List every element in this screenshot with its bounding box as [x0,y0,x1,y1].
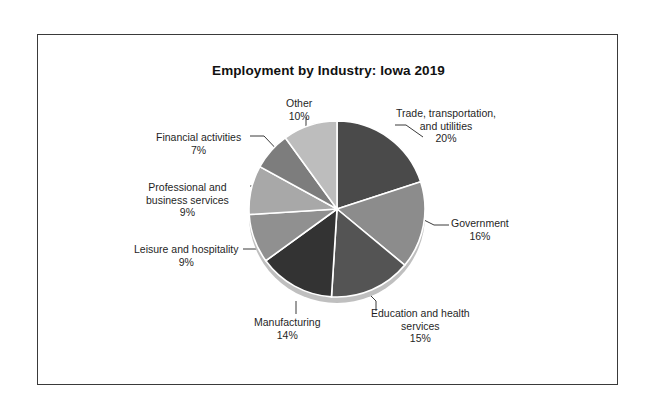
pie-chart [248,120,428,310]
pie-label-leisure: Leisure and hospitality 9% [134,243,238,268]
pie-label-financial-line1: Financial activities [156,131,241,143]
pie-label-professional-pct: 9% [146,206,229,219]
pie-label-leisure-line1: Leisure and hospitality [134,243,238,255]
pie-label-manufacturing-pct: 14% [254,329,321,342]
pie-label-government: Government 16% [451,217,509,242]
pie-label-professional-line1: Professional and [148,181,226,193]
pie-label-government-pct: 16% [451,230,509,243]
pie-label-education: Education and health services 15% [371,307,470,345]
pie-label-other: Other 10% [286,97,312,122]
pie-label-financial-pct: 7% [156,144,241,157]
pie-label-professional: Professional and business services 9% [146,181,229,219]
pie-label-trade-line2: and utilities [420,120,473,132]
page-title: Employment by Industry: Iowa 2019 [38,63,619,78]
pie-label-other-line1: Other [286,97,312,109]
pie-slices [248,120,428,310]
pie-label-other-pct: 10% [286,110,312,123]
pie-label-education-line2: services [401,320,440,332]
chart-frame: Employment by Industry: Iowa 2019 [37,34,618,385]
pie-label-manufacturing-line1: Manufacturing [254,316,321,328]
pie-label-trade-line1: Trade, transportation, [396,107,496,119]
pie-label-leisure-pct: 9% [134,256,238,269]
pie-label-government-line1: Government [451,217,509,229]
pie-label-financial: Financial activities 7% [156,131,241,156]
pie-label-education-pct: 15% [371,332,470,345]
pie-label-trade: Trade, transportation, and utilities 20% [396,107,496,145]
pie-label-professional-line2: business services [146,194,229,206]
pie-label-education-line1: Education and health [371,307,470,319]
pie-label-trade-pct: 20% [396,132,496,145]
pie-label-manufacturing: Manufacturing 14% [254,316,321,341]
